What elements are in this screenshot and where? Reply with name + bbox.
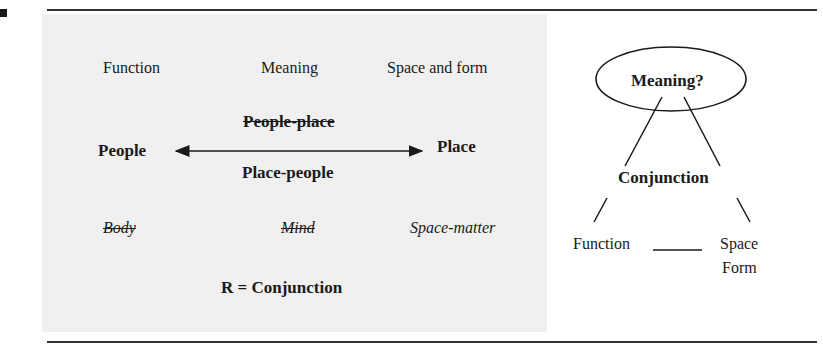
diagram-lines — [0, 0, 823, 351]
bottom-rule — [47, 341, 817, 343]
meaning-ellipse — [596, 47, 746, 111]
